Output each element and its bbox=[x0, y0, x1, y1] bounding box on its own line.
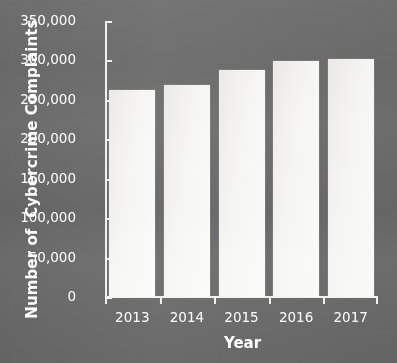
x-tick-mark bbox=[323, 296, 325, 304]
x-tick-label-2013: 2013 bbox=[102, 309, 162, 325]
y-tick-label: 250,000 bbox=[0, 91, 76, 107]
y-tick-mark bbox=[105, 297, 112, 299]
y-tick-mark bbox=[105, 21, 112, 23]
x-axis-title: Year bbox=[105, 334, 380, 352]
x-tick-label-2017: 2017 bbox=[321, 309, 381, 325]
y-tick-label: 150,000 bbox=[0, 170, 76, 186]
y-tick-label: 0 bbox=[0, 288, 76, 304]
x-tick-mark bbox=[269, 296, 271, 304]
y-tick-label: 300,000 bbox=[0, 51, 76, 67]
plot-area: 050,000100,000150,000200,000250,000300,0… bbox=[105, 21, 378, 297]
y-axis-line bbox=[105, 21, 107, 298]
bar-2017 bbox=[328, 59, 374, 297]
bar-2013 bbox=[109, 90, 155, 297]
y-tick-label: 100,000 bbox=[0, 209, 76, 225]
y-tick-label: 200,000 bbox=[0, 130, 76, 146]
y-tick-label: 350,000 bbox=[0, 12, 76, 28]
x-axis-cap-right bbox=[376, 296, 378, 304]
bar-2015 bbox=[219, 70, 265, 297]
bar-2014 bbox=[164, 85, 210, 297]
bar-chart: Number of Cybercrime Complaints Year 050… bbox=[0, 0, 397, 363]
y-tick-label: 50,000 bbox=[0, 249, 76, 265]
x-tick-label-2016: 2016 bbox=[266, 309, 326, 325]
x-tick-label-2014: 2014 bbox=[157, 309, 217, 325]
y-tick-mark bbox=[105, 60, 112, 62]
x-tick-mark bbox=[214, 296, 216, 304]
x-tick-mark bbox=[160, 296, 162, 304]
x-tick-label-2015: 2015 bbox=[212, 309, 272, 325]
bar-2016 bbox=[273, 61, 319, 297]
